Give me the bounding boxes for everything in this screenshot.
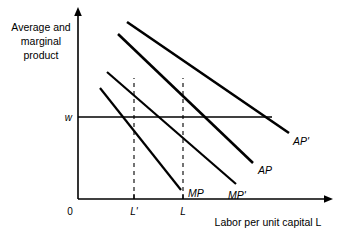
curve-label-mp: MP — [188, 187, 204, 199]
curve-label-mp-prime: MP' — [228, 189, 247, 201]
y-axis-title-line2: marginal — [21, 35, 61, 47]
curve-label-ap: AP — [257, 164, 272, 176]
curve-mp — [100, 88, 181, 190]
y-axis-title-line1: Average and — [11, 21, 71, 33]
x-axis-title: Labor per unit capital L — [215, 216, 322, 228]
origin-label: 0 — [67, 206, 73, 217]
x-axis-arrowhead — [324, 195, 333, 203]
x-tick-label-l-prime: L' — [130, 206, 139, 217]
y-axis-arrowhead — [74, 7, 82, 16]
average-marginal-product-chart: AP' AP MP' MP w 0 L' L Average and margi… — [0, 0, 344, 238]
curve-label-ap-prime: AP' — [292, 135, 310, 147]
y-axis-title-line3: product — [23, 49, 58, 61]
wage-axis-label: w — [65, 112, 73, 123]
y-axis-title: Average and marginal product — [11, 21, 71, 61]
x-tick-label-l: L — [180, 206, 186, 217]
economics-figure: AP' AP MP' MP w 0 L' L Average and margi… — [0, 0, 344, 238]
